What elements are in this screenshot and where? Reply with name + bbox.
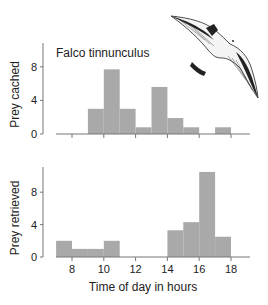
y-tick-label: 0 — [31, 128, 37, 140]
histogram-figure: 048Prey cachedFalco tinnunculus 04881012… — [0, 0, 268, 305]
histogram-bar — [56, 241, 72, 257]
y-tick-label: 4 — [31, 219, 37, 231]
kestrel-illustration-icon — [171, 16, 258, 98]
x-tick-label: 14 — [161, 263, 173, 275]
y-tick-label: 8 — [31, 61, 37, 73]
y-axis-label: Prey retrieved — [8, 181, 22, 256]
histogram-bar — [167, 118, 183, 134]
histogram-bar — [215, 127, 231, 134]
histogram-bar — [183, 222, 199, 257]
x-tick-label: 16 — [193, 263, 205, 275]
histogram-bar — [152, 87, 168, 134]
x-tick-label: 12 — [129, 263, 141, 275]
x-tick-label: 18 — [225, 263, 237, 275]
histogram-bar — [104, 241, 120, 257]
y-tick-label: 8 — [31, 186, 37, 198]
prey-cached-panel: 048Prey cachedFalco tinnunculus — [8, 43, 250, 140]
histogram-bar — [136, 127, 152, 134]
histogram-bar — [183, 127, 199, 134]
y-axis-label: Prey cached — [8, 61, 22, 128]
histogram-bar — [120, 109, 136, 134]
histogram-bar — [215, 237, 231, 257]
x-tick-label: 8 — [69, 263, 75, 275]
x-axis-label: Time of day in hours — [89, 280, 197, 294]
y-tick-label: 0 — [31, 251, 37, 263]
histogram-bar — [104, 69, 120, 134]
histogram-bar — [88, 109, 104, 134]
y-tick-label: 4 — [31, 94, 37, 106]
histogram-bar — [167, 230, 183, 257]
prey-retrieved-panel: 04881012141618Prey retrievedTime of day … — [8, 167, 250, 294]
x-tick-label: 10 — [98, 263, 110, 275]
histogram-bar — [199, 172, 215, 257]
histogram-bar — [72, 249, 88, 257]
chart-title: Falco tinnunculus — [56, 46, 149, 60]
histogram-bar — [88, 249, 104, 257]
